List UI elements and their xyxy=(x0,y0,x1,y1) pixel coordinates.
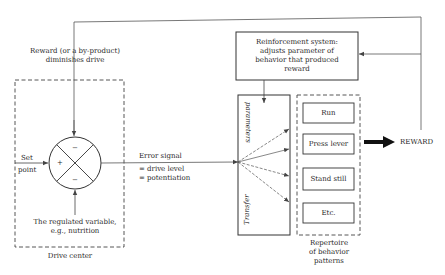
drive-center-label: Drive center xyxy=(40,252,100,261)
behavior-run: Run xyxy=(303,109,354,118)
reinforcement-line2: adjusts parameter of xyxy=(236,47,358,56)
regulated-variable-line1: The regulated variable, xyxy=(28,218,122,227)
behavior-press-lever: Press lever xyxy=(303,140,354,149)
regulated-variable-line2: e.g., nutrition xyxy=(28,227,122,236)
transfer-parameters-label: parameters xyxy=(243,98,252,148)
comparator-sign-bottom-minus: − xyxy=(72,176,78,185)
comparator-sign-plus: + xyxy=(57,159,63,168)
feedback-label-line2: diminishes drive xyxy=(30,56,120,65)
reinforcement-label: Reinforcement system: adjusts parameter … xyxy=(236,38,358,74)
reward-label: REWARD xyxy=(400,138,433,147)
reinforcement-line4: reward xyxy=(236,65,358,74)
transfer-label: Transfer xyxy=(243,190,252,230)
error-signal-label: Error signal = drive level = potentiatio… xyxy=(139,152,190,183)
error-signal-line2: = potentiation xyxy=(139,174,190,183)
behavior-stand-still: Stand still xyxy=(303,175,354,184)
comparator-sign-top-minus: − xyxy=(72,144,78,153)
set-point-label: Set point xyxy=(18,154,36,175)
reinforcement-line1: Reinforcement system: xyxy=(236,38,358,47)
feedback-label-line1: Reward (or a by-product) xyxy=(30,47,120,56)
error-signal-line1: = drive level xyxy=(139,165,190,174)
bold-reward-arrow xyxy=(364,136,395,148)
feedback-label: Reward (or a by-product) diminishes driv… xyxy=(30,47,120,65)
reinforcement-line3: behavior that produced xyxy=(236,56,358,65)
error-signal-title: Error signal xyxy=(139,152,190,161)
repertoire-line2: of behavior xyxy=(298,248,360,257)
set-point-line1: Set xyxy=(21,154,36,163)
set-point-line2: point xyxy=(18,166,36,175)
regulated-variable-label: The regulated variable, e.g., nutrition xyxy=(28,218,122,236)
behavior-etc: Etc. xyxy=(303,209,354,218)
repertoire-line1: Repertoire xyxy=(298,239,360,248)
repertoire-line3: patterns xyxy=(298,257,360,266)
repertoire-label: Repertoire of behavior patterns xyxy=(298,239,360,266)
